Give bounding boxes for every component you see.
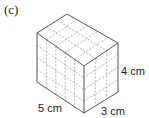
unit-grid-lines	[37, 20, 118, 109]
cuboid-edges	[37, 14, 118, 113]
length-label: 5 cm	[38, 102, 62, 114]
height-label: 4 cm	[121, 65, 145, 77]
cuboid-diagram	[0, 0, 149, 118]
width-label: 3 cm	[101, 105, 125, 117]
